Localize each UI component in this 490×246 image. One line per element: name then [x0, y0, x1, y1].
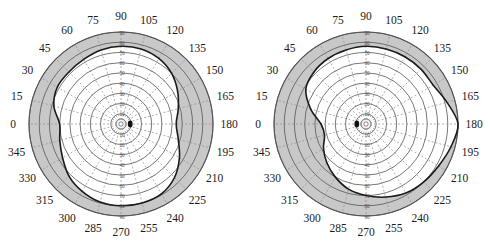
angle-tick-label: 195 [462, 146, 480, 158]
radial-tick-label: 70 [364, 193, 370, 199]
angle-tick-label: 165 [462, 90, 480, 102]
angle-tick-label: 135 [189, 42, 207, 54]
angle-tick-label: 90 [360, 10, 372, 22]
radial-tick-label: 70 [364, 50, 370, 56]
angle-tick-label: 45 [39, 42, 51, 54]
radial-tick-label: 20 [119, 142, 125, 148]
angle-tick-label: 270 [112, 226, 130, 238]
radial-tick-label: 80 [364, 40, 370, 46]
angle-tick-label: 150 [206, 64, 224, 76]
angle-tick-label: 15 [256, 90, 268, 102]
angle-tick-label: 105 [385, 14, 403, 26]
angle-tick-label: 315 [281, 194, 299, 206]
angle-tick-label: 345 [253, 146, 271, 158]
angle-tick-label: 330 [19, 172, 37, 184]
polar-chart-left: 1010202030304040505060607070808090900153… [0, 0, 245, 246]
angle-tick-label: 315 [36, 194, 54, 206]
polar-chart-right: 1010202030304040505060607070808090900153… [245, 0, 490, 246]
angle-tick-label: 165 [217, 90, 235, 102]
center-origin-dot [119, 122, 123, 126]
radial-tick-label: 40 [364, 81, 370, 87]
angle-tick-label: 0 [10, 118, 16, 130]
radial-tick-label: 80 [364, 203, 370, 209]
radial-tick-label: 30 [119, 91, 125, 97]
angle-tick-label: 120 [411, 24, 429, 36]
angle-tick-label: 60 [61, 24, 73, 36]
radial-tick-label: 60 [364, 60, 370, 66]
angle-tick-label: 330 [264, 172, 282, 184]
angle-tick-label: 120 [166, 24, 184, 36]
angle-tick-label: 30 [267, 64, 279, 76]
offset-marker [128, 121, 133, 128]
radial-tick-label: 40 [364, 162, 370, 168]
angle-tick-label: 240 [411, 212, 429, 224]
angle-tick-label: 285 [329, 222, 347, 234]
angle-tick-label: 90 [115, 10, 127, 22]
angle-tick-label: 210 [206, 172, 224, 184]
radial-tick-label: 90 [119, 30, 125, 36]
angle-tick-label: 150 [451, 64, 469, 76]
polar-axes: 1010202030304040505060607070808090900153… [0, 0, 245, 246]
radial-tick-label: 80 [119, 203, 125, 209]
angle-tick-label: 300 [303, 212, 321, 224]
radial-tick-label: 60 [119, 183, 125, 189]
radial-tick-label: 50 [364, 173, 370, 179]
angle-tick-label: 180 [220, 118, 238, 130]
angle-tick-label: 135 [434, 42, 452, 54]
angle-tick-label: 255 [385, 222, 403, 234]
radial-tick-label: 40 [119, 162, 125, 168]
radial-tick-label: 50 [119, 70, 125, 76]
radial-tick-label: 30 [364, 152, 370, 158]
radial-tick-label: 50 [119, 173, 125, 179]
angle-tick-label: 75 [87, 14, 99, 26]
radial-tick-label: 60 [119, 60, 125, 66]
angle-tick-label: 195 [217, 146, 235, 158]
radial-tick-label: 10 [364, 111, 370, 117]
radial-tick-label: 20 [364, 142, 370, 148]
radial-tick-label: 40 [119, 81, 125, 87]
radial-tick-label: 20 [364, 101, 370, 107]
radial-tick-label: 10 [119, 111, 125, 117]
angle-tick-label: 180 [465, 118, 483, 130]
radial-tick-label: 70 [119, 50, 125, 56]
center-origin-dot [364, 122, 368, 126]
radial-tick-label: 90 [364, 30, 370, 36]
angle-tick-label: 30 [22, 64, 34, 76]
figure-canvas: 1010202030304040505060607070808090900153… [0, 0, 490, 246]
angle-tick-label: 105 [140, 14, 158, 26]
angle-tick-label: 15 [11, 90, 23, 102]
radial-tick-label: 10 [119, 132, 125, 138]
offset-marker [354, 121, 359, 128]
radial-tick-label: 90 [119, 214, 125, 220]
radial-tick-label: 30 [364, 91, 370, 97]
radial-tick-label: 10 [364, 132, 370, 138]
angle-tick-label: 60 [306, 24, 318, 36]
radial-tick-label: 50 [364, 70, 370, 76]
angle-tick-label: 345 [8, 146, 26, 158]
angle-tick-label: 210 [451, 172, 469, 184]
angle-tick-label: 75 [332, 14, 344, 26]
angle-tick-label: 300 [58, 212, 76, 224]
angle-tick-label: 225 [434, 194, 452, 206]
polar-axes: 1010202030304040505060607070808090900153… [245, 0, 490, 246]
radial-tick-label: 70 [119, 193, 125, 199]
angle-tick-label: 0 [255, 118, 261, 130]
radial-tick-label: 90 [364, 214, 370, 220]
radial-tick-label: 60 [364, 183, 370, 189]
radial-tick-label: 80 [119, 40, 125, 46]
angle-tick-label: 255 [140, 222, 158, 234]
angle-tick-label: 285 [84, 222, 102, 234]
radial-tick-label: 30 [119, 152, 125, 158]
angle-tick-label: 45 [284, 42, 296, 54]
angle-tick-label: 225 [189, 194, 207, 206]
angle-tick-label: 270 [357, 226, 375, 238]
radial-tick-label: 20 [119, 101, 125, 107]
angle-tick-label: 240 [166, 212, 184, 224]
